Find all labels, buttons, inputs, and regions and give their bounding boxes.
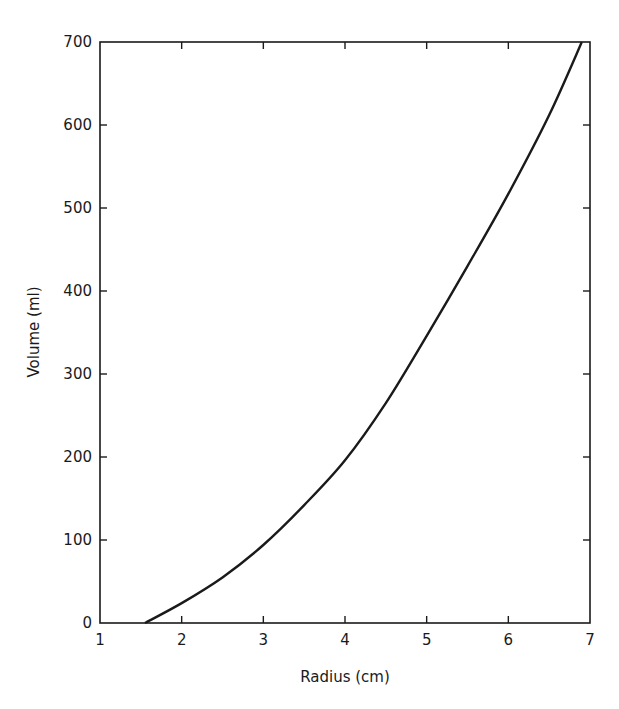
x-tick-label: 5: [422, 631, 432, 649]
x-tick-label: 1: [95, 631, 105, 649]
x-tick-label: 3: [259, 631, 269, 649]
y-axis-title: Volume (ml): [25, 286, 43, 377]
y-tick-label: 500: [63, 199, 92, 217]
data-line: [145, 42, 582, 623]
y-tick-label: 600: [63, 116, 92, 134]
y-tick-label: 300: [63, 365, 92, 383]
y-tick-label: 400: [63, 282, 92, 300]
x-axis-ticks: 1234567: [95, 42, 595, 649]
y-axis-ticks: 0100200300400500600700: [63, 33, 590, 632]
y-tick-label: 700: [63, 33, 92, 51]
y-tick-label: 100: [63, 531, 92, 549]
y-tick-label: 0: [82, 614, 92, 632]
plot-frame: [100, 42, 590, 623]
x-tick-label: 7: [585, 631, 595, 649]
x-tick-label: 2: [177, 631, 187, 649]
volume-radius-chart: 1234567 0100200300400500600700 Radius (c…: [0, 0, 619, 709]
y-tick-label: 200: [63, 448, 92, 466]
x-tick-label: 4: [340, 631, 350, 649]
x-axis-title: Radius (cm): [300, 668, 390, 686]
x-tick-label: 6: [504, 631, 514, 649]
